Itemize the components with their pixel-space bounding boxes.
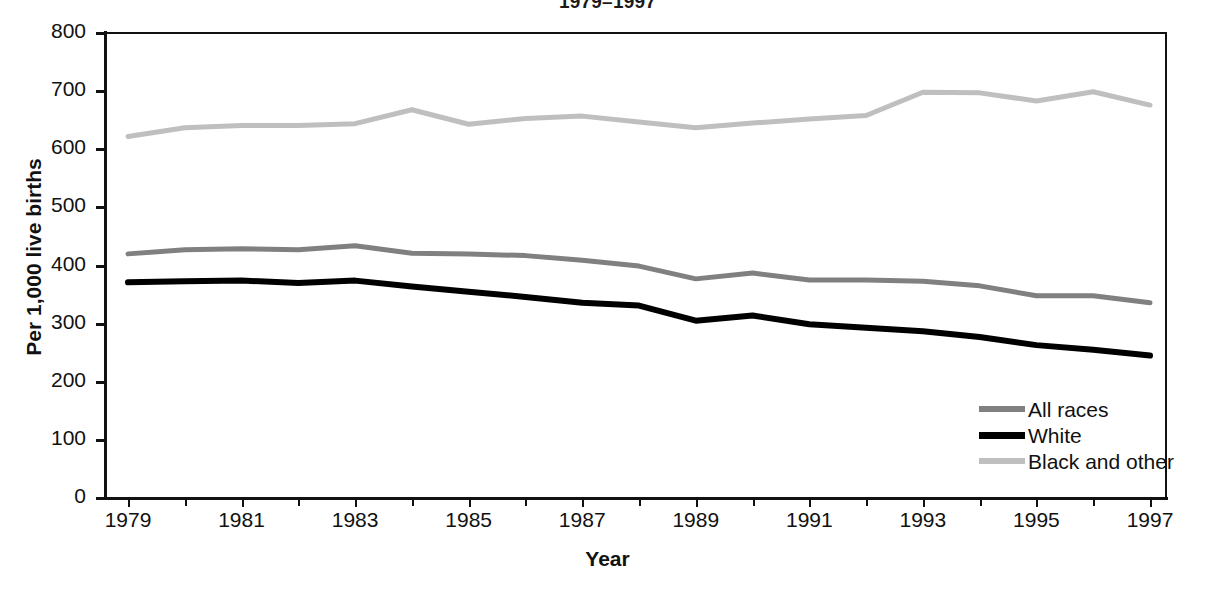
x-tick-label: 1987 [537,508,627,532]
chart-legend: All racesWhiteBlack and other [979,396,1174,474]
series-line [128,92,1150,137]
x-tick-minor [525,498,527,506]
x-tick-minor [866,498,868,506]
x-tick-minor [1093,498,1095,506]
x-tick-label: 1983 [310,508,400,532]
x-axis-label: Year [0,547,1215,571]
x-tick [128,498,130,507]
x-tick-minor [412,498,414,506]
legend-swatch [979,432,1025,439]
x-tick-label: 1991 [764,508,854,532]
y-tick [96,323,105,326]
legend-item[interactable]: All races [979,396,1174,422]
series-line [128,246,1150,303]
x-tick [1150,498,1152,507]
y-tick [96,90,105,93]
x-tick [582,498,584,507]
legend-label: Black and other [1028,451,1174,472]
legend-swatch [979,458,1025,464]
x-tick [923,498,925,507]
x-tick [809,498,811,507]
y-tick [96,439,105,442]
legend-item[interactable]: White [979,422,1174,448]
x-tick-label: 1993 [878,508,968,532]
y-tick [96,148,105,151]
x-tick-minor [185,498,187,506]
chart-figure: 1979–1997 0100200300400500600700800 1979… [0,0,1215,591]
y-tick-label: 100 [12,426,86,450]
legend-label: White [1028,425,1082,446]
x-tick-minor [298,498,300,506]
chart-title: 1979–1997 [0,0,1215,13]
y-tick [96,497,105,500]
x-tick-minor [980,498,982,506]
y-axis-label: Per 1,000 live births [22,127,46,387]
x-tick [242,498,244,507]
y-tick-label: 0 [12,484,86,508]
y-tick-label: 700 [12,77,86,101]
x-tick-label: 1989 [651,508,741,532]
y-tick [96,32,105,35]
y-tick [96,206,105,209]
legend-label: All races [1028,399,1109,420]
x-tick [1036,498,1038,507]
x-tick-label: 1985 [424,508,514,532]
x-tick-minor [639,498,641,506]
x-tick [696,498,698,507]
x-tick-label: 1981 [197,508,287,532]
x-tick-minor [753,498,755,506]
x-tick-label: 1997 [1105,508,1195,532]
y-tick [96,265,105,268]
series-line [128,281,1150,356]
legend-swatch [979,406,1025,412]
x-tick [469,498,471,507]
x-tick-label: 1979 [83,508,173,532]
x-tick-label: 1995 [991,508,1081,532]
x-tick [355,498,357,507]
legend-item[interactable]: Black and other [979,448,1174,474]
y-tick-label: 800 [12,19,86,43]
y-tick [96,381,105,384]
